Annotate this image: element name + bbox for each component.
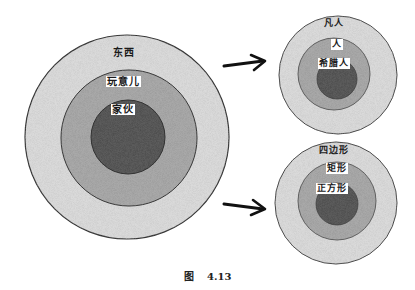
main-diagram [25, 35, 229, 239]
caption-number: 4.13 [207, 271, 231, 282]
label-things: 东西 [113, 47, 135, 58]
label-humans: 人 [331, 39, 343, 50]
caption-prefix: 图 [184, 271, 194, 282]
nested-circles-figure [0, 0, 415, 290]
top-example-diagram [279, 16, 397, 134]
bottom-example-diagram [275, 142, 397, 264]
label-squares: 正方形 [316, 183, 348, 194]
label-mortals: 凡人 [324, 18, 344, 29]
label-objects: 家伙 [111, 104, 135, 115]
figure-caption: 图 4.13 [0, 268, 415, 283]
arrow-to-bottom-example [224, 200, 265, 215]
label-rectangles: 矩形 [326, 163, 348, 174]
label-gadgets: 玩意儿 [106, 76, 141, 87]
label-greeks: 希腊人 [318, 58, 350, 69]
label-quadrilaterals: 四边形 [319, 145, 349, 156]
arrow-to-top-example [224, 55, 265, 70]
